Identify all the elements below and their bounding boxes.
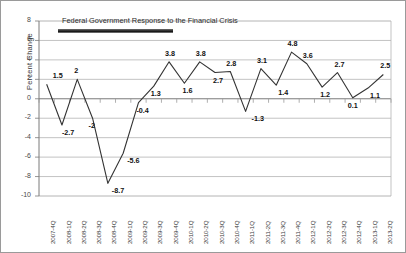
- data-point-label: 3.1: [257, 56, 267, 65]
- data-point-label: 3.6: [303, 51, 313, 60]
- data-point-label: 0.1: [348, 101, 358, 110]
- data-point-label: -5.6: [127, 156, 139, 165]
- data-point-label: -2.7: [62, 128, 74, 137]
- data-point-label: 1.5: [53, 71, 63, 80]
- x-axis-tick-label: 2008-3Q: [95, 221, 102, 244]
- data-point-label: -8.7: [112, 186, 124, 195]
- x-axis-tick-label: 2011-4Q: [294, 221, 301, 244]
- x-axis-tick-label: 2009-2Q: [141, 221, 148, 244]
- y-axis-tick-label: -10: [9, 191, 31, 198]
- annotation-bar: [58, 29, 173, 33]
- data-point-label: -1.3: [252, 114, 264, 123]
- x-axis-tick-label: 2010-4Q: [233, 221, 240, 244]
- data-point-label: -0.4: [136, 106, 148, 115]
- x-axis-tick-label: 2009-3Q: [156, 221, 163, 244]
- x-axis-tick-label: 2012-3Q: [340, 221, 347, 244]
- x-axis-tick-label: 2009-4Q: [172, 221, 179, 244]
- y-axis-tick-label: 8: [9, 16, 31, 23]
- y-axis-tick-label: 6: [9, 35, 31, 42]
- y-axis-tick-label: -6: [9, 152, 31, 159]
- x-axis-tick-label: 2012-2Q: [325, 221, 332, 244]
- data-point-label: 4.8: [288, 39, 298, 48]
- data-point-label: -2: [89, 121, 95, 130]
- data-point-label: 2.8: [226, 59, 236, 68]
- x-axis-tick-label: 2007-4Q: [49, 221, 56, 244]
- x-axis-tick-label: 2011-3Q: [279, 221, 286, 244]
- x-axis-tick-label: 2013-2Q: [386, 221, 393, 244]
- x-axis-tick-label: 2010-3Q: [218, 221, 225, 244]
- x-axis-tick-label: 2010-1Q: [187, 221, 194, 244]
- data-point-label: 1.4: [278, 88, 288, 97]
- data-point-label: 3.8: [165, 49, 175, 58]
- x-axis-tick-label: 2012-1Q: [309, 221, 316, 244]
- chart-plot-area: [1, 1, 406, 253]
- x-axis-tick-label: 2010-2Q: [202, 221, 209, 244]
- x-axis-tick-label: 2009-1Q: [126, 221, 133, 244]
- x-axis-tick-label: 2008-1Q: [65, 221, 72, 244]
- data-point-label: 1.2: [320, 90, 330, 99]
- x-axis-tick-label: 2013-1Q: [371, 221, 378, 244]
- y-axis-tick-label: 0: [9, 94, 31, 101]
- x-axis-tick-label: 2011-1Q: [248, 221, 255, 244]
- x-axis-tick-label: 2011-2Q: [264, 221, 271, 244]
- chart-container: Percent Change 86420-2-4-6-8-101.5-2.72-…: [0, 0, 406, 253]
- x-axis-tick-label: 2008-2Q: [80, 221, 87, 244]
- data-point-label: 2.5: [380, 61, 390, 70]
- y-axis-tick-label: -2: [9, 113, 31, 120]
- x-axis-tick-label: 2008-4Q: [110, 221, 117, 244]
- annotation-title: Federal Government Response to the Finan…: [62, 16, 238, 25]
- x-axis-tick-label: 2012-4Q: [355, 221, 362, 244]
- data-series-line: [47, 52, 384, 183]
- data-point-label: 2.7: [213, 76, 223, 85]
- data-point-label: 1.1: [370, 91, 380, 100]
- y-axis-tick-label: -4: [9, 133, 31, 140]
- data-point-label: 3.8: [196, 49, 206, 58]
- data-point-label: 2: [74, 66, 78, 75]
- y-axis-tick-label: 2: [9, 74, 31, 81]
- y-axis-tick-label: -8: [9, 172, 31, 179]
- y-axis-tick-label: 4: [9, 55, 31, 62]
- data-point-label: 1.6: [182, 86, 192, 95]
- data-point-label: 1.3: [151, 89, 161, 98]
- data-point-label: 2.7: [334, 60, 344, 69]
